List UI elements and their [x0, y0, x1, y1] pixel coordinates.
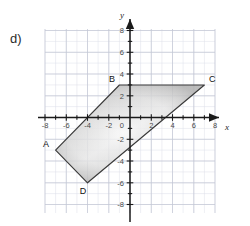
x-tick-label: -2 [105, 121, 112, 130]
coordinate-plane-figure: d) [0, 0, 250, 226]
y-tick-label: -4 [117, 157, 124, 166]
vertex-label-c: C [209, 74, 216, 84]
x-tick-label: -8 [42, 121, 49, 130]
y-tick-label: 8 [120, 26, 124, 35]
x-tick-label: 6 [192, 121, 196, 130]
y-tick-label: -8 [117, 200, 124, 209]
x-tick-label: 8 [213, 121, 217, 130]
origin-label: 0 [120, 121, 124, 130]
x-tick-label: -6 [63, 121, 70, 130]
y-tick-label: 4 [120, 70, 124, 79]
x-tick-label: 4 [170, 121, 174, 130]
x-tick-label: 2 [149, 121, 153, 130]
y-tick-label: -2 [117, 135, 124, 144]
vertex-label-a: A [43, 139, 49, 149]
vertex-label-b: B [109, 74, 115, 84]
y-tick-label: 2 [120, 92, 124, 101]
vertex-label-d: D [80, 186, 87, 196]
y-tick-label: 6 [120, 48, 124, 57]
y-axis-name: y [119, 10, 124, 20]
y-tick-label: -6 [117, 179, 124, 188]
x-tick-label: -4 [84, 121, 91, 130]
coordinate-plot: -8 -6 -4 -2 2 4 6 8 8 6 4 2 -2 -4 -6 -8 … [0, 0, 250, 226]
x-axis-name: x [224, 122, 229, 132]
